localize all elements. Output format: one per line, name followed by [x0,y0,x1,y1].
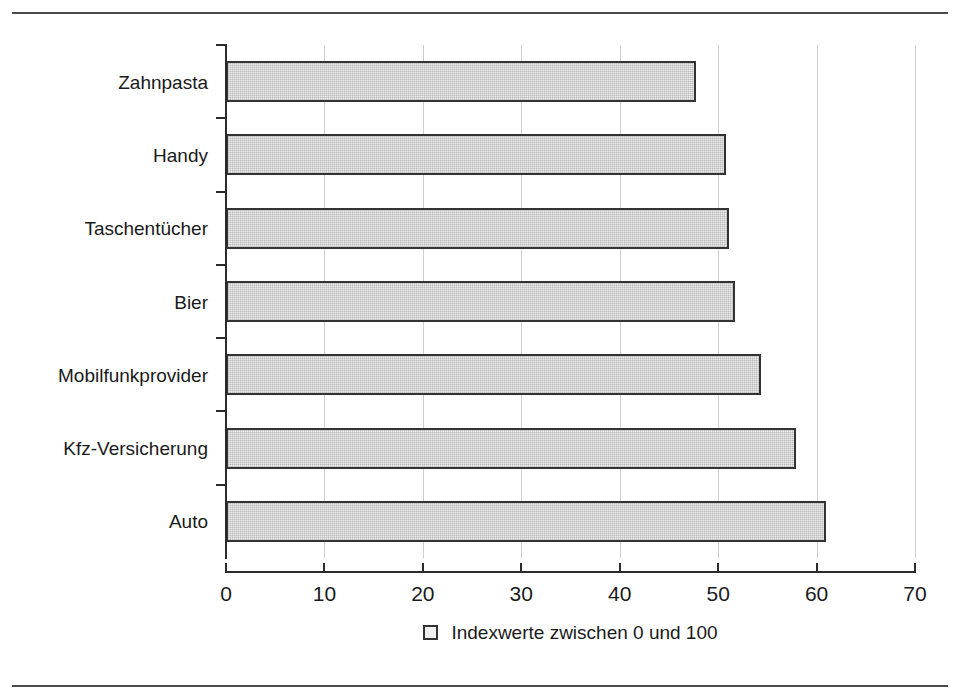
legend-label: Indexwerte zwischen 0 und 100 [451,623,717,642]
value-tick-label: 60 [787,582,847,606]
category-tick [216,337,225,339]
gridline [915,45,916,558]
value-tick [619,563,621,573]
value-tick [816,563,818,573]
category-label: Zahnpasta [118,73,208,92]
value-tick [323,563,325,573]
category-tick [216,484,225,486]
value-tick [717,563,719,573]
category-label: Auto [169,512,208,531]
value-tick [520,563,522,573]
bar [226,208,729,249]
category-tick [216,44,225,46]
value-tick-label: 50 [688,582,748,606]
value-tick [422,563,424,573]
bar [226,281,735,322]
chart-legend: Indexwerte zwischen 0 und 100 [226,623,915,642]
bar [226,61,696,102]
value-tick-label: 70 [885,582,945,606]
category-axis-line [225,44,227,559]
value-tick [914,563,916,573]
category-tick [216,191,225,193]
value-axis-line [225,571,916,573]
bar [226,501,826,542]
value-tick-label: 20 [393,582,453,606]
value-tick-label: 10 [294,582,354,606]
bar [226,428,796,469]
category-label: Taschentücher [84,219,208,238]
bottom-divider-rule [12,685,948,687]
category-tick [216,410,225,412]
category-label: Mobilfunkprovider [58,366,208,385]
plot-area [226,45,915,558]
category-label: Kfz-Versicherung [63,439,208,458]
legend-swatch-icon [423,625,438,640]
bar [226,134,726,175]
category-label: Handy [153,146,208,165]
value-tick-label: 40 [590,582,650,606]
category-label: Bier [174,293,208,312]
chart-figure: ZahnpastaHandyTaschentücherBierMobilfunk… [0,0,960,700]
value-tick [225,563,227,573]
gridline [817,45,818,558]
value-tick-label: 30 [491,582,551,606]
category-tick [216,117,225,119]
value-tick-label: 0 [196,582,256,606]
bar [226,354,761,395]
top-divider-rule [12,12,948,14]
category-tick [216,264,225,266]
